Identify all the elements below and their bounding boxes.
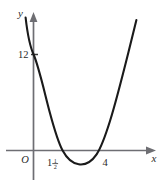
x-tick-label-whole: 1: [47, 157, 52, 168]
x-axis-label: x: [151, 152, 157, 164]
x-tick-label-denominator: 2: [54, 163, 57, 170]
y-axis-label: y: [17, 7, 23, 19]
y-axis-arrow-icon: [30, 12, 38, 22]
plot-svg: y x O 12 1 1 2 4: [0, 0, 166, 188]
x-tick-label-one-and-half: 1 1 2: [47, 157, 58, 171]
parabola-figure: y x O 12 1 1 2 4: [0, 0, 166, 188]
y-tick-label-12: 12: [18, 49, 29, 60]
parabola-curve: [26, 18, 137, 165]
x-tick-label-4: 4: [102, 157, 108, 168]
origin-label: O: [21, 154, 29, 165]
